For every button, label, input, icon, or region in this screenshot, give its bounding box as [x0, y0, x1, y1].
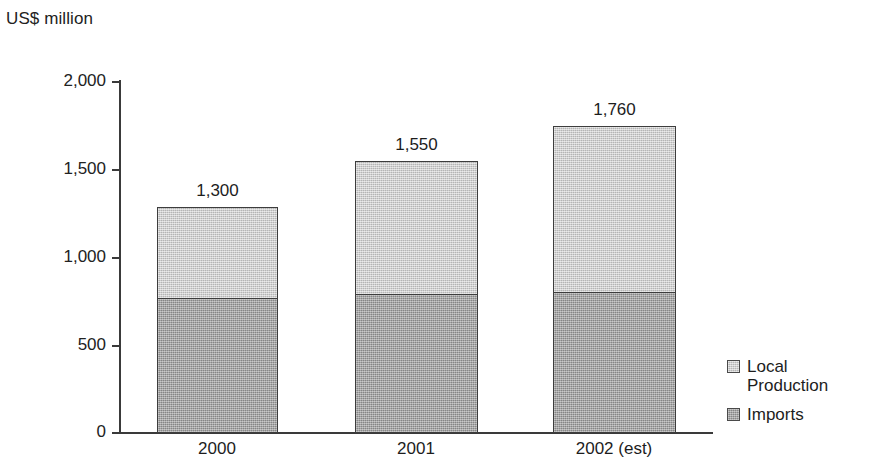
stacked-bar-chart: US$ million 2,000 1,500 1,000 500 0 1,30… — [0, 0, 870, 466]
bar-total-label: 1,300 — [138, 182, 298, 200]
bar-segment-local-production[interactable] — [157, 207, 278, 299]
legend-item-local-production[interactable]: Local Production — [727, 357, 828, 395]
y-axis-label-2000: 2,000 — [2, 72, 106, 89]
y-axis-label-0: 0 — [2, 423, 106, 440]
bar-group-2000[interactable]: 1,300 — [157, 207, 278, 433]
legend-label-local-production: Local Production — [747, 357, 828, 395]
y-axis-tick — [112, 345, 120, 347]
y-axis-label-500: 500 — [2, 336, 106, 353]
legend-swatch-local-production — [727, 360, 740, 373]
x-axis-label-2002-est: 2002 (est) — [514, 439, 714, 458]
x-axis-label-2000: 2000 — [117, 439, 317, 458]
y-axis-tick — [112, 257, 120, 259]
bar-group-2001[interactable]: 1,550 — [355, 161, 478, 433]
bar-segment-local-production[interactable] — [553, 126, 676, 293]
legend-swatch-imports — [727, 408, 740, 421]
y-axis-unit-title: US$ million — [6, 9, 93, 29]
y-axis-tick — [112, 81, 120, 83]
y-axis-label-1500: 1,500 — [2, 160, 106, 177]
legend-item-imports[interactable]: Imports — [727, 405, 804, 424]
bar-segment-imports[interactable] — [355, 294, 478, 433]
legend-label-imports: Imports — [747, 405, 804, 424]
y-axis-tick — [112, 432, 120, 434]
bar-total-label: 1,550 — [337, 136, 497, 154]
x-axis-label-2001: 2001 — [316, 439, 516, 458]
bar-segment-imports[interactable] — [157, 298, 278, 433]
bar-total-label: 1,760 — [535, 101, 695, 119]
bar-group-2002-est[interactable]: 1,760 — [553, 126, 676, 433]
y-axis-label-1000: 1,000 — [2, 248, 106, 265]
bar-segment-imports[interactable] — [553, 292, 676, 433]
y-axis-tick — [112, 169, 120, 171]
bar-segment-local-production[interactable] — [355, 161, 478, 295]
